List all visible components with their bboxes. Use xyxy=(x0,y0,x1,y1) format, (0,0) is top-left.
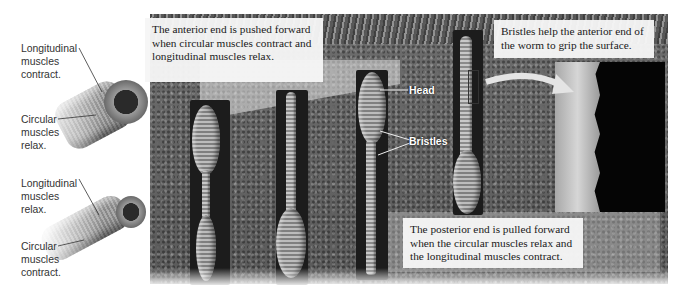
label-bristles: Bristles xyxy=(409,135,448,147)
callout-anterior: The anterior end is pushed forward when … xyxy=(145,18,323,82)
label-head: Head xyxy=(409,84,435,96)
label-longitudinal-relax: Longitudinal muscles relax. xyxy=(21,177,77,216)
earthworm-locomotion-diagram: Longitudinal muscles contract. Circular … xyxy=(0,0,681,292)
callout-bristles: Bristles help the anterior end of the wo… xyxy=(494,20,654,58)
label-circular-contract: Circular muscles contract. xyxy=(21,240,61,279)
label-longitudinal-contract: Longitudinal muscles contract. xyxy=(21,42,77,81)
callout-posterior: The posterior end is pulled forward when… xyxy=(403,218,583,268)
label-circular-relax: Circular muscles relax. xyxy=(21,113,59,152)
